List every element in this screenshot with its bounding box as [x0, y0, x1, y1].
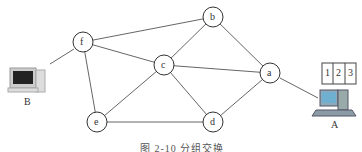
computer-b-icon [8, 68, 45, 92]
node-d-label: d [210, 116, 215, 127]
network-diagram [0, 0, 362, 152]
figure-caption: 图 2-10 分组交换 [140, 140, 224, 152]
node-e-label: e [94, 116, 98, 127]
host-b-label: B [24, 96, 31, 107]
packet-2: 2 [336, 67, 341, 78]
packet-1: 1 [325, 67, 330, 78]
node-a-label: a [267, 67, 271, 78]
node-f-label: f [80, 36, 83, 47]
packet-3: 3 [348, 67, 353, 78]
node-b-label: b [210, 11, 215, 22]
computer-a-icon [312, 90, 356, 116]
node-c-label: c [161, 59, 165, 70]
host-a-label: A [331, 119, 338, 130]
node-circles [73, 7, 280, 132]
